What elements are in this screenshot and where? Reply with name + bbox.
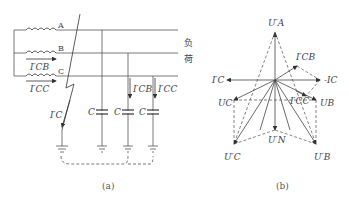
ub-label: UB <box>320 98 335 108</box>
phase-label-a: A <box>57 21 64 30</box>
capacitor-label-1: C <box>88 107 95 117</box>
ic-prime-label: I′C <box>211 75 225 85</box>
phasor-diagram-b <box>227 32 320 144</box>
icb-source-label: I′CB <box>29 62 49 72</box>
capacitor-label-3: C <box>139 107 146 117</box>
circuit-and-phasor-figure: A B C 负 荷 I′CB I′CC I′C I′CB I′CC C C C … <box>0 0 349 201</box>
capacitor-label-2: C <box>114 107 121 117</box>
uc-prime-label: U′C <box>224 152 241 162</box>
icc-source-label: I′CC <box>29 84 49 94</box>
ua-prime-label: U′A <box>268 18 285 28</box>
neg-ic-label: -IC <box>324 75 338 85</box>
icc-prime-label: I′CC <box>289 96 309 106</box>
ub-prime-label: U′B <box>314 152 331 162</box>
icb-cap-label: I′CB <box>132 84 152 94</box>
icc-cap-label: I′CC <box>157 84 177 94</box>
caption-a: (a) <box>102 181 114 191</box>
ic-fault-label: I′C <box>49 110 63 120</box>
un-prime-label: U′N <box>268 135 287 145</box>
phase-label-b: B <box>58 44 64 53</box>
load-label-bottom: 荷 <box>184 54 193 64</box>
icb-prime-label: I′CB <box>295 52 315 62</box>
load-label-top: 负 <box>184 37 193 48</box>
phase-label-c: C <box>58 67 64 76</box>
uc-label: UC <box>218 98 233 108</box>
caption-b: (b) <box>276 181 289 191</box>
